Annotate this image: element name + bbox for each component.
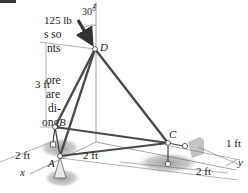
point-A-label: A [47,157,55,169]
force-label: 125 lb [44,14,72,26]
z-axis-label: z [92,0,97,10]
point-C-label: C [169,128,177,140]
support-B [51,142,56,147]
joint-A [58,154,63,159]
applied-force [78,20,96,44]
x-axis-label: x [19,166,25,178]
dimension-ac-span: 2 ft [83,149,98,161]
reference-lines [0,42,240,180]
dimension-ab-offset: 2 ft [15,149,30,161]
member-DC [95,49,168,143]
y-axis-label: y [237,156,243,168]
textbook-figure-page: s so nts ore are di- ong [0,0,248,193]
member-DA [60,49,95,156]
angle-arc [83,25,96,28]
support-C-roller-2 [182,143,187,148]
tripod-diagram: 125 lb 30° z D B A C x y 3 ft 2 ft 2 ft … [0,0,248,193]
point-D-label: D [99,41,108,53]
joint-B [53,125,58,130]
joint-C [166,141,171,146]
point-B-label: B [59,116,66,128]
joint-D [93,47,98,52]
support-C-roller [165,161,170,166]
dimension-c-offset: 1 ft [226,137,241,149]
dimension-c-depth: 2 ft [196,165,211,177]
dimension-height: 3 ft [35,78,50,90]
support-A [54,157,66,178]
force-arrow [78,20,92,44]
